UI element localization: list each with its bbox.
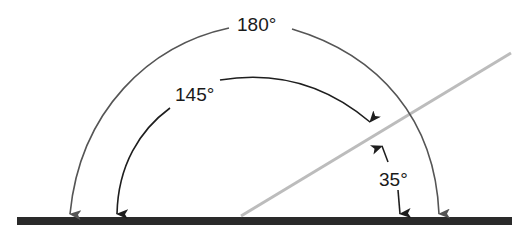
arc-145-left: [117, 108, 170, 214]
arc-180-left: [70, 28, 229, 214]
ray-line: [241, 53, 511, 216]
baseline: [17, 217, 512, 225]
label-35: 35°: [379, 169, 408, 190]
label-180: 180°: [237, 14, 276, 35]
label-145: 145°: [175, 84, 214, 105]
angle-diagram: 180° 145° 35°: [0, 0, 528, 233]
arc-145-right: [220, 77, 370, 122]
arrow-35-down: [398, 190, 400, 214]
arc-180-right: [292, 29, 439, 214]
arrow-35-up: [382, 146, 388, 162]
